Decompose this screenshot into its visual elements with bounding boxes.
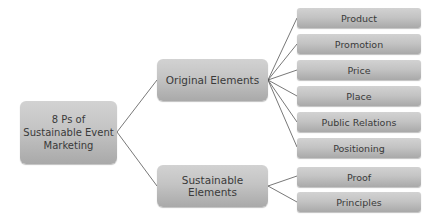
root-line-1: 8 Ps of (23, 113, 113, 126)
leaf-label: Principles (336, 197, 381, 208)
branch-label: Original Elements (166, 74, 259, 86)
branch-sustainable-elements: Sustainable Elements (157, 165, 268, 207)
leaf-label: Place (346, 91, 371, 102)
root-node: 8 Ps of Sustainable Event Marketing (20, 101, 117, 164)
branch-original-elements: Original Elements (157, 59, 268, 101)
leaf-label: Price (347, 65, 370, 76)
leaf-product: Product (297, 8, 421, 28)
leaf-label: Public Relations (322, 117, 397, 128)
leaf-place: Place (297, 86, 421, 106)
leaf-label: Positioning (333, 143, 385, 154)
leaf-public-relations: Public Relations (297, 112, 421, 132)
branch-label: Sustainable Elements (157, 174, 268, 198)
leaf-promotion: Promotion (297, 34, 421, 54)
leaf-label: Promotion (335, 39, 383, 50)
leaf-price: Price (297, 60, 421, 80)
leaf-label: Proof (347, 172, 371, 183)
leaf-label: Product (341, 13, 377, 24)
leaf-principles: Principles (297, 192, 421, 212)
leaf-positioning: Positioning (297, 138, 421, 158)
root-line-3: Marketing (23, 139, 113, 152)
root-line-2: Sustainable Event (23, 126, 113, 139)
leaf-proof: Proof (297, 167, 421, 187)
